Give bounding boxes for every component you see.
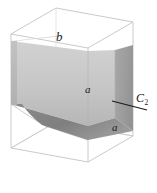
plane-front-face xyxy=(11,41,115,126)
label-edge-b: b xyxy=(56,30,63,43)
label-edge-a-lower: a xyxy=(112,122,118,133)
plane-top-sliver xyxy=(11,36,62,41)
label-plane-c2-symbol: C xyxy=(136,91,144,105)
label-plane-c2-subscript: 2 xyxy=(145,98,149,107)
figure-container: b a a C2 xyxy=(0,0,157,193)
plane-right-face xyxy=(115,45,133,131)
label-edge-a-upper: a xyxy=(85,84,91,95)
plane-left-sliver xyxy=(11,41,17,106)
box-diagram-svg xyxy=(0,0,157,193)
label-plane-c2: C2 xyxy=(136,92,148,104)
